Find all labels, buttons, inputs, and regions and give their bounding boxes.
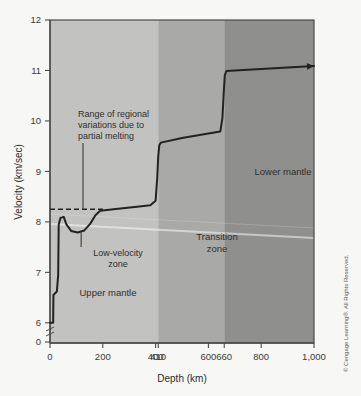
y-tick-label: 12 bbox=[30, 14, 41, 25]
x-tick-label: 0 bbox=[47, 351, 52, 362]
y-tick-label: 10 bbox=[30, 115, 41, 126]
velocity-depth-chart: 12111098760 02004004106006608001,000 Vel… bbox=[0, 0, 361, 396]
zone-label-upper-mantle: Upper mantle bbox=[79, 287, 136, 298]
y-tick-label: 8 bbox=[36, 216, 41, 227]
zone-label-transition-zone-line1: Transition bbox=[196, 231, 237, 242]
y-tick-label: 7 bbox=[36, 267, 41, 278]
x-tick-label: 600 bbox=[200, 351, 216, 362]
zone-band-transition-zone bbox=[158, 20, 224, 343]
y-tick-label: 6 bbox=[36, 317, 41, 328]
seismic-velocity-figure: 12111098760 02004004106006608001,000 Vel… bbox=[0, 0, 361, 396]
y-tick-label: 11 bbox=[31, 65, 41, 76]
x-axis: 02004004106006608001,000 bbox=[47, 343, 326, 362]
x-axis-title: Depth (km) bbox=[157, 373, 206, 384]
y-tick-label: 9 bbox=[36, 166, 41, 177]
zone-label-transition-zone-line2: zone bbox=[207, 243, 228, 254]
x-tick-label: 800 bbox=[253, 351, 269, 362]
x-tick-label: 660 bbox=[216, 351, 232, 362]
y-axis: 12111098760 bbox=[30, 14, 50, 347]
partial-melting-line-2: variations due to bbox=[78, 120, 144, 130]
x-tick-label: 1,000 bbox=[302, 351, 326, 362]
partial-melting-line-3: partial melting bbox=[78, 131, 134, 141]
copyright-credit: © Cengage Learning®. All Rights Reserved… bbox=[343, 254, 349, 372]
y-tick-label: 0 bbox=[36, 336, 41, 347]
y-axis-title: Velocity (km/sec) bbox=[13, 144, 24, 220]
low-velocity-zone-line-1: Low-velocity bbox=[93, 248, 143, 258]
partial-melting-line-1: Range of regional bbox=[78, 109, 149, 119]
low-velocity-zone-line-2: zone bbox=[108, 259, 128, 269]
zone-label-lower-mantle: Lower mantle bbox=[254, 166, 311, 177]
x-tick-label: 200 bbox=[95, 351, 111, 362]
x-tick-label: 410 bbox=[150, 351, 166, 362]
